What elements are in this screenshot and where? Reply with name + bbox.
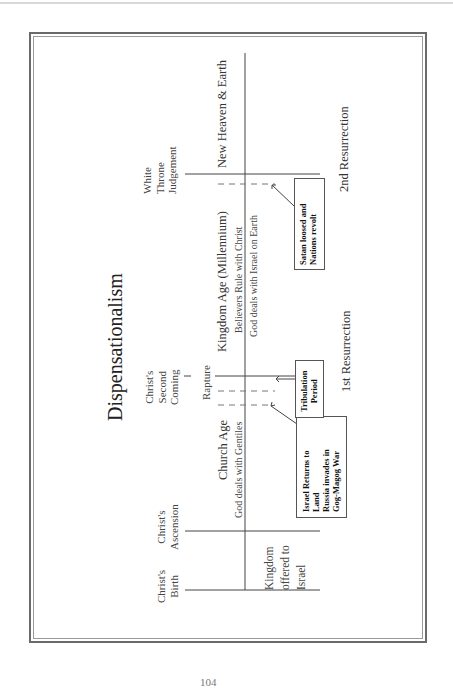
event-christs-ascension: Christ's Ascension: [155, 504, 180, 550]
event-christs-second-coming: Christ's Second Coming: [143, 370, 181, 405]
page-number: 104: [200, 676, 217, 688]
age-kingdom-label: Kingdom Age (Millennium): [215, 211, 230, 352]
age-kingdom-sub1: Believers Rule with Christ: [233, 227, 244, 333]
event-rapture: Rapture: [200, 365, 213, 400]
diagram-title: Dispensationalism: [104, 273, 127, 421]
first-resurrection-label: 1st Resurrection: [339, 310, 354, 392]
box-tribulation-text: Tribulation Period: [299, 371, 319, 412]
box-satan-loosed-text: Satan loosed and Nations revolt: [298, 204, 318, 265]
age-kingdom-sub2: God deals with Israel on Earth: [248, 215, 259, 337]
box-israel-returns-text: Israel Returns to Land Russia invades in…: [301, 449, 341, 512]
age-church-sub: God deals with Gentiles: [233, 422, 244, 518]
event-white-throne-judgement: White Throne Judgement: [141, 146, 179, 194]
age-kingdom-offered: Kingdom offered to Israel: [261, 545, 309, 590]
event-christs-birth: Christ's Birth: [155, 570, 180, 603]
age-church-label: Church Age: [216, 420, 231, 480]
age-new-heaven: New Heaven & Earth: [215, 60, 230, 168]
second-resurrection-label: 2nd Resurrection: [337, 106, 352, 192]
